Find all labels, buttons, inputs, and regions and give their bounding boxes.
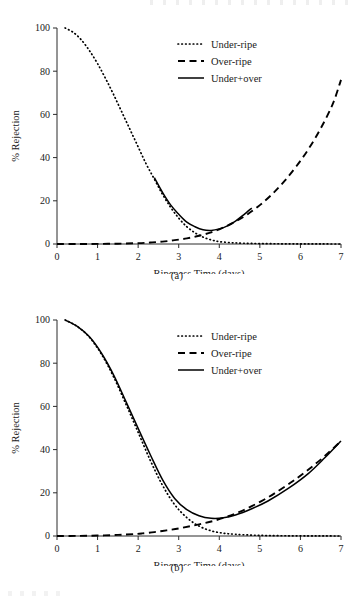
chart-b-legend: Under-ripeOver-ripeUnder+over <box>178 331 262 376</box>
x-axis-title: Ripeness Time (days) <box>153 268 245 274</box>
series-curve-over-ripe <box>57 80 341 244</box>
x-tick-label-1: 1 <box>95 543 100 554</box>
figure-page: 02040608010001234567Ripeness Time (days)… <box>0 0 354 598</box>
page-top-scan-artifact <box>150 0 350 5</box>
y-axis-title: % Rejection <box>10 109 21 161</box>
x-tick-label-3: 3 <box>176 251 181 262</box>
x-axis-title: Ripeness Time (days) <box>153 560 245 566</box>
x-tick-label-3: 3 <box>176 543 181 554</box>
x-tick-label-4: 4 <box>217 543 222 554</box>
y-tick-label-20: 20 <box>40 487 50 498</box>
x-tick-label-2: 2 <box>136 543 141 554</box>
y-tick-label-100: 100 <box>35 22 50 33</box>
chart-b-svg: 02040608010001234567Ripeness Time (days)… <box>0 298 354 566</box>
x-tick-label-7: 7 <box>339 543 344 554</box>
x-tick-label-5: 5 <box>257 251 262 262</box>
y-tick-label-40: 40 <box>40 444 50 455</box>
y-tick-label-80: 80 <box>40 358 50 369</box>
legend-label-over-ripe: Over-ripe <box>211 348 252 359</box>
figure-a-caption: (a) <box>0 270 354 281</box>
chart-a-svg: 02040608010001234567Ripeness Time (days)… <box>0 6 354 274</box>
y-tick-label-100: 100 <box>35 314 50 325</box>
legend-label-over-ripe: Over-ripe <box>211 56 252 67</box>
y-tick-label-20: 20 <box>40 195 50 206</box>
x-tick-label-4: 4 <box>217 251 222 262</box>
x-tick-label-5: 5 <box>257 543 262 554</box>
figure-b-caption: (b) <box>0 562 354 573</box>
x-tick-label-1: 1 <box>95 251 100 262</box>
legend-label-under-ripe: Under-ripe <box>211 331 257 342</box>
chart-a-axes: 02040608010001234567 <box>35 22 344 262</box>
y-tick-label-80: 80 <box>40 66 50 77</box>
y-tick-label-60: 60 <box>40 401 50 412</box>
series-curve-under-over <box>154 178 251 231</box>
x-tick-label-0: 0 <box>55 543 60 554</box>
y-tick-label-40: 40 <box>40 152 50 163</box>
chart-b-axes: 02040608010001234567 <box>35 314 344 554</box>
series-curve-over-ripe <box>57 441 341 536</box>
x-tick-label-0: 0 <box>55 251 60 262</box>
x-tick-label-6: 6 <box>298 543 303 554</box>
legend-label-under-over: Under+over <box>211 365 262 376</box>
y-tick-label-60: 60 <box>40 109 50 120</box>
x-tick-label-7: 7 <box>339 251 344 262</box>
y-axis-title: % Rejection <box>10 401 21 453</box>
series-curve-under-over <box>65 320 341 518</box>
y-tick-label-0: 0 <box>45 530 50 541</box>
legend-label-under-ripe: Under-ripe <box>211 39 257 50</box>
chart-a-legend: Under-ripeOver-ripeUnder+over <box>178 39 262 84</box>
x-tick-label-6: 6 <box>298 251 303 262</box>
page-bottom-scan-artifact <box>8 591 68 596</box>
figure-a: 02040608010001234567Ripeness Time (days)… <box>0 6 354 298</box>
figure-b: 02040608010001234567Ripeness Time (days)… <box>0 298 354 590</box>
x-tick-label-2: 2 <box>136 251 141 262</box>
y-tick-label-0: 0 <box>45 238 50 249</box>
legend-label-under-over: Under+over <box>211 73 262 84</box>
